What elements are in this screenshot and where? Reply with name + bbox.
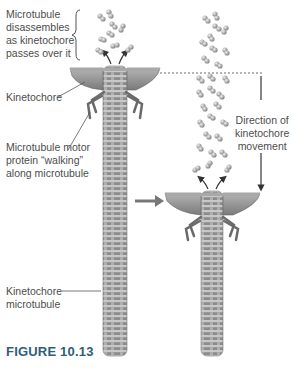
disassembly-line-1: Microtubule [6, 8, 74, 21]
left-tubulin-subunits [95, 9, 133, 54]
direction-label: Direction of kinetochore movement [235, 114, 289, 153]
disassembly-line-4: passes over it [6, 47, 74, 60]
figure-caption: FIGURE 10.13 [6, 344, 94, 359]
disassembly-label: Microtubule disassembles as kinetochore … [6, 8, 74, 60]
left-microtubule [103, 66, 127, 356]
kinetochore-leader [58, 82, 85, 97]
direction-line-3: movement [235, 140, 289, 153]
motor-protein-label: Microtubule motor protein “walking” alon… [6, 141, 90, 180]
kinetochore-microtubule-label: Kinetochore microtubule [6, 285, 62, 311]
direction-line-2: kinetochore [235, 127, 289, 140]
motor-line-3: along microtubule [6, 167, 90, 180]
disassembly-line-2: disassembles [6, 21, 74, 34]
direction-line-1: Direction of [235, 114, 289, 127]
right-left-release-arrow [200, 178, 208, 189]
km-line-2: microtubule [6, 298, 62, 311]
disassembly-line-3: as kinetochore [6, 34, 74, 47]
right-right-release-arrow [216, 178, 224, 189]
right-tubulin-subunits [192, 11, 231, 172]
kinetochore-label: Kinetochore [6, 91, 62, 104]
right-microtubule [201, 191, 223, 356]
km-line-1: Kinetochore [6, 285, 62, 298]
motor-line-1: Microtubule motor [6, 141, 90, 154]
left-release-arrow [104, 52, 111, 64]
right-release-arrow [119, 52, 126, 64]
motor-line-2: protein “walking” [6, 154, 90, 167]
